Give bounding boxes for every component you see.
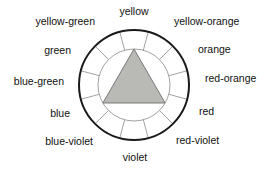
- segment-label-yellow-green: yellow-green: [35, 16, 95, 27]
- segment-label-violet: violet: [123, 152, 148, 163]
- segment-label-yellow-orange: yellow-orange: [174, 16, 239, 27]
- primary-triangle: [103, 49, 165, 103]
- segment-label-blue: blue: [50, 108, 70, 119]
- segment-divider: [159, 110, 172, 123]
- segment-divider: [95, 46, 108, 59]
- segment-label-red-orange: red-orange: [205, 73, 256, 84]
- segment-label-blue-violet: blue-violet: [45, 136, 93, 147]
- segment-label-red: red: [199, 106, 214, 117]
- segment-divider: [143, 32, 148, 50]
- segment-label-blue-green: blue-green: [14, 76, 64, 87]
- segment-divider: [120, 32, 125, 50]
- segment-divider: [95, 110, 108, 123]
- segment-divider: [120, 120, 125, 138]
- segment-divider: [81, 94, 99, 99]
- color-wheel-diagram: yellowyellow-orangeorangered-orangeredre…: [0, 0, 275, 169]
- segment-label-red-violet: red-violet: [176, 135, 219, 146]
- segment-label-green: green: [44, 45, 71, 56]
- segment-divider: [169, 94, 187, 99]
- segment-label-yellow: yellow: [119, 6, 148, 17]
- segment-divider: [143, 120, 148, 138]
- segment-divider: [81, 71, 99, 76]
- segment-label-orange: orange: [198, 44, 231, 55]
- segment-divider: [169, 71, 187, 76]
- segment-divider: [159, 46, 172, 59]
